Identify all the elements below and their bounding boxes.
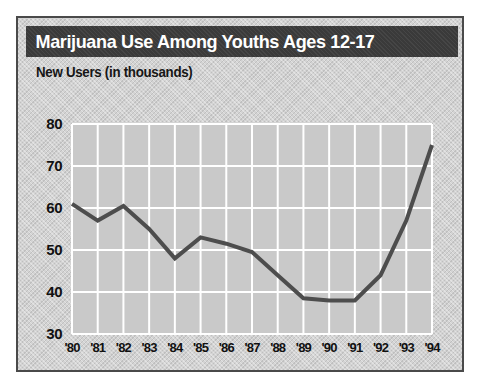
x-axis-tick-label: '82 xyxy=(110,340,136,355)
x-axis-tick-label: '81 xyxy=(85,340,111,355)
x-axis-tick-label: '88 xyxy=(265,340,291,355)
x-axis-tick-label: '80 xyxy=(59,340,85,355)
x-axis-tick-label: '94 xyxy=(419,340,445,355)
x-axis-tick-label: '89 xyxy=(290,340,316,355)
x-axis-tick-label: '92 xyxy=(368,340,394,355)
y-axis-tick-label: 40 xyxy=(32,283,62,300)
x-axis-tick-label: '83 xyxy=(136,340,162,355)
x-axis-tick-label: '87 xyxy=(239,340,265,355)
y-axis-tick-label: 60 xyxy=(32,199,62,216)
y-axis-tick-label: 80 xyxy=(32,115,62,132)
line-chart-svg xyxy=(18,18,466,374)
x-axis-tick-label: '86 xyxy=(213,340,239,355)
y-axis-tick-label: 50 xyxy=(32,241,62,258)
x-axis-tick-label: '84 xyxy=(162,340,188,355)
y-axis-tick-label: 70 xyxy=(32,157,62,174)
chart-figure: Marijuana Use Among Youths Ages 12-17 Ne… xyxy=(0,0,482,391)
x-axis-tick-label: '90 xyxy=(316,340,342,355)
plot-area: 304050607080 '80'81'82'83'84'85'86'87'88… xyxy=(18,18,466,374)
x-axis-tick-label: '93 xyxy=(393,340,419,355)
x-axis-tick-label: '85 xyxy=(188,340,214,355)
chart-card: Marijuana Use Among Youths Ages 12-17 Ne… xyxy=(16,16,464,372)
y-axis-tick-label: 30 xyxy=(32,325,62,342)
x-axis-tick-label: '91 xyxy=(342,340,368,355)
